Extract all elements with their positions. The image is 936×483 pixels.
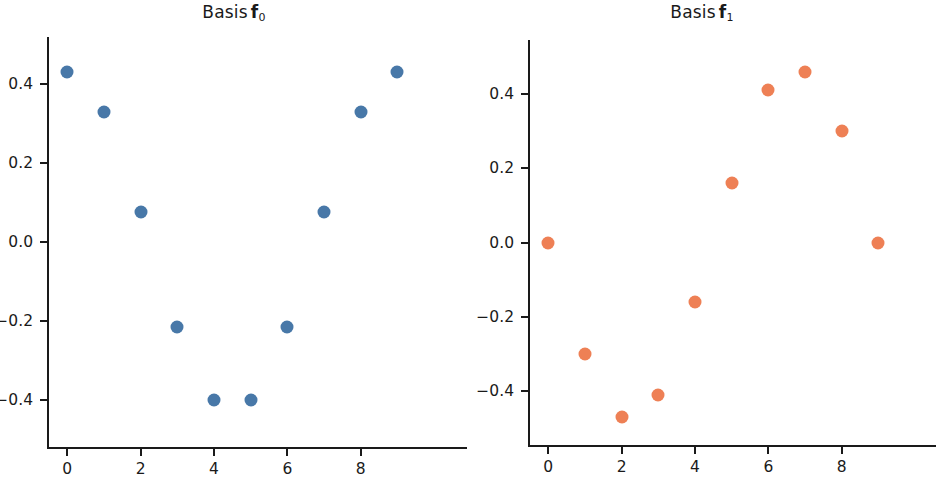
x-axis-tick bbox=[841, 447, 843, 454]
y-axis-ticklabel: −0.4 bbox=[0, 391, 33, 409]
data-point bbox=[171, 320, 184, 333]
data-point bbox=[281, 320, 294, 333]
y-axis-ticklabel: 0.4 bbox=[8, 75, 33, 93]
x-axis-ticklabel: 2 bbox=[617, 458, 627, 476]
y-axis-ticklabel: 0.2 bbox=[8, 154, 33, 172]
y-axis-ticklabel: 0.2 bbox=[489, 159, 514, 177]
panel-title-prefix: Basis bbox=[670, 2, 716, 22]
plot-area-basis-f0: 0.40.20.0−0.2−0.402468 bbox=[47, 37, 425, 447]
data-point bbox=[134, 206, 147, 219]
panel-basis-f0: Basisf0 0.40.20.0−0.2−0.402468 bbox=[0, 0, 468, 483]
x-axis-ticklabel: 0 bbox=[543, 458, 553, 476]
x-axis-spine bbox=[528, 445, 936, 447]
y-axis-ticklabel: −0.4 bbox=[476, 382, 514, 400]
figure-canvas: Basisf0 0.40.20.0−0.2−0.402468 Basisf1 0… bbox=[0, 0, 936, 483]
x-axis-ticklabel: 8 bbox=[837, 458, 847, 476]
panel-title-basis-f1: Basisf1 bbox=[468, 2, 936, 22]
data-point bbox=[318, 206, 331, 219]
y-axis-ticklabel: 0.0 bbox=[8, 233, 33, 251]
data-point bbox=[61, 66, 74, 79]
y-axis-spine bbox=[528, 40, 530, 447]
data-point bbox=[97, 105, 110, 118]
x-axis-ticklabel: 2 bbox=[136, 460, 146, 478]
data-point bbox=[244, 393, 257, 406]
panel-basis-f1: Basisf1 0.40.20.0−0.2−0.402468 bbox=[468, 0, 936, 483]
data-point bbox=[652, 388, 665, 401]
y-axis-tick bbox=[521, 316, 528, 318]
y-axis-tick bbox=[521, 390, 528, 392]
data-point bbox=[762, 84, 775, 97]
x-axis-tick bbox=[286, 449, 288, 456]
y-axis-tick bbox=[521, 242, 528, 244]
data-point bbox=[207, 393, 220, 406]
x-axis-tick bbox=[213, 449, 215, 456]
x-axis-ticklabel: 4 bbox=[690, 458, 700, 476]
y-axis-tick bbox=[40, 320, 47, 322]
x-axis-ticklabel: 6 bbox=[763, 458, 773, 476]
y-axis-tick bbox=[521, 167, 528, 169]
x-axis-ticklabel: 6 bbox=[282, 460, 292, 478]
x-axis-tick bbox=[621, 447, 623, 454]
data-point bbox=[835, 125, 848, 138]
x-axis-tick bbox=[694, 447, 696, 454]
y-axis-ticklabel: −0.2 bbox=[0, 312, 33, 330]
x-axis-tick bbox=[547, 447, 549, 454]
y-axis-tick bbox=[40, 399, 47, 401]
data-point bbox=[799, 65, 812, 78]
data-point bbox=[615, 411, 628, 424]
data-point bbox=[542, 236, 555, 249]
x-axis-ticklabel: 4 bbox=[209, 460, 219, 478]
data-point bbox=[725, 177, 738, 190]
x-axis-spine bbox=[47, 447, 467, 449]
x-axis-ticklabel: 8 bbox=[356, 460, 366, 478]
data-point bbox=[872, 236, 885, 249]
y-axis-tick bbox=[521, 93, 528, 95]
panel-title-subscript: 0 bbox=[258, 11, 265, 24]
plot-area-basis-f1: 0.40.20.0−0.2−0.402468 bbox=[528, 40, 906, 445]
panel-title-subscript: 1 bbox=[726, 11, 733, 24]
y-axis-tick bbox=[40, 241, 47, 243]
y-axis-tick bbox=[40, 162, 47, 164]
x-axis-tick bbox=[360, 449, 362, 456]
panel-title-prefix: Basis bbox=[202, 2, 248, 22]
panel-title-basis-f0: Basisf0 bbox=[0, 2, 468, 22]
y-axis-spine bbox=[47, 37, 49, 449]
data-point bbox=[354, 105, 367, 118]
x-axis-tick bbox=[767, 447, 769, 454]
data-point bbox=[688, 295, 701, 308]
y-axis-tick bbox=[40, 83, 47, 85]
y-axis-ticklabel: 0.0 bbox=[489, 234, 514, 252]
y-axis-ticklabel: 0.4 bbox=[489, 85, 514, 103]
data-point bbox=[391, 66, 404, 79]
data-point bbox=[578, 347, 591, 360]
x-axis-tick bbox=[66, 449, 68, 456]
y-axis-ticklabel: −0.2 bbox=[476, 308, 514, 326]
x-axis-ticklabel: 0 bbox=[62, 460, 72, 478]
x-axis-tick bbox=[140, 449, 142, 456]
